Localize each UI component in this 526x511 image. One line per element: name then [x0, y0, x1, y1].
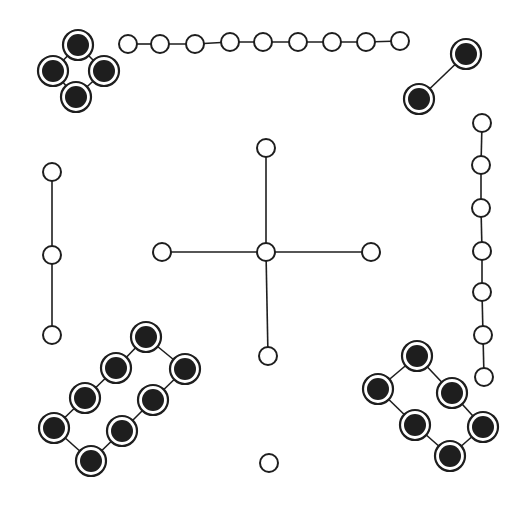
open-node: [357, 33, 375, 51]
open-node: [472, 199, 490, 217]
filled-node-core: [135, 326, 157, 348]
open-node: [475, 368, 493, 386]
open-node: [119, 35, 137, 53]
filled-node-core: [42, 60, 64, 82]
nodes-filled-cycle-8: [39, 322, 200, 476]
open-node: [473, 114, 491, 132]
open-node: [362, 243, 380, 261]
filled-node-core: [367, 378, 389, 400]
nodes-filled-cycle-4: [38, 30, 119, 112]
filled-node-core: [404, 414, 426, 436]
open-node: [473, 242, 491, 260]
open-node: [259, 347, 277, 365]
filled-node-core: [93, 60, 115, 82]
open-node: [391, 32, 409, 50]
open-node: [257, 139, 275, 157]
filled-node-core: [80, 450, 102, 472]
nodes-layer: [38, 30, 498, 476]
open-node: [257, 243, 275, 261]
filled-node-core: [65, 86, 87, 108]
graph-diagram: [0, 0, 526, 511]
filled-node-core: [439, 445, 461, 467]
open-node: [151, 35, 169, 53]
filled-node-core: [142, 389, 164, 411]
open-node: [474, 326, 492, 344]
open-node: [323, 33, 341, 51]
filled-node-core: [105, 357, 127, 379]
filled-node-core: [408, 88, 430, 110]
graph-filled-cycle-6: [378, 356, 483, 456]
filled-node-core: [472, 416, 494, 438]
open-node: [254, 33, 272, 51]
open-node: [260, 454, 278, 472]
open-node: [43, 246, 61, 264]
open-node: [473, 283, 491, 301]
filled-node-core: [455, 43, 477, 65]
nodes-open-path-9: [119, 32, 409, 53]
filled-node-core: [174, 358, 196, 380]
filled-node-core: [67, 34, 89, 56]
nodes-filled-cycle-6: [363, 341, 498, 471]
open-node: [186, 35, 204, 53]
open-node: [221, 33, 239, 51]
filled-node-core: [111, 420, 133, 442]
open-node: [43, 326, 61, 344]
nodes-open-isolated-1: [260, 454, 278, 472]
filled-node-core: [406, 345, 428, 367]
filled-node-core: [441, 382, 463, 404]
open-node: [289, 33, 307, 51]
open-node: [472, 156, 490, 174]
open-node: [153, 243, 171, 261]
open-node: [43, 163, 61, 181]
filled-node-core: [74, 387, 96, 409]
filled-node-core: [43, 417, 65, 439]
edge: [266, 252, 268, 356]
